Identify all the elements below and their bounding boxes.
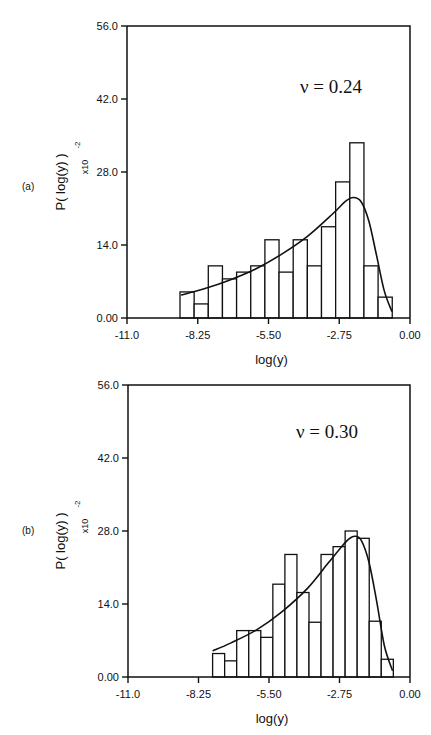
histogram-bar [222, 279, 236, 318]
histogram-chart-b: 0.0014.028.042.056.0-11.0-8.25-5.50-2.75… [0, 358, 431, 735]
histogram-bar [194, 304, 208, 318]
y-tick-label: 14.0 [97, 239, 118, 251]
x-tick-label: 0.00 [399, 688, 420, 700]
x-tick-label: -2.75 [327, 688, 352, 700]
histogram-bar [336, 182, 350, 318]
histogram-chart-a: 0.0014.028.042.056.0-11.0-8.25-5.50-2.75… [0, 0, 431, 368]
chart-panel-a: 0.0014.028.042.056.0-11.0-8.25-5.50-2.75… [0, 0, 431, 368]
y-tick-label: 56.0 [97, 20, 118, 32]
x-axis-label: log(y) [256, 711, 289, 726]
histogram-bar [180, 292, 194, 318]
histogram-bar [285, 554, 297, 677]
y-axis-label: P( log(y) ) [53, 153, 68, 210]
histogram-bar [225, 661, 237, 677]
histogram-bar [213, 654, 225, 677]
x-tick-label: -11.0 [115, 329, 139, 341]
histogram-bar [307, 266, 321, 318]
histogram-bar [265, 240, 279, 318]
histogram-bar [364, 266, 378, 318]
histogram-bar [297, 593, 309, 677]
x-tick-label: 0.00 [399, 329, 420, 341]
y-tick-label: 56.0 [98, 379, 119, 391]
x-tick-label: -8.25 [185, 329, 210, 341]
y-scale-exponent: -2 [73, 500, 82, 508]
x-tick-label: -11.0 [116, 688, 140, 700]
y-axis-label: P( log(y) ) [53, 512, 68, 569]
x-tick-label: -5.50 [256, 329, 281, 341]
histogram-bar [293, 240, 307, 318]
x-tick-label: -5.50 [256, 688, 281, 700]
histogram-bars [180, 143, 392, 318]
histogram-bar [350, 143, 364, 318]
histogram-bar [208, 266, 222, 318]
histogram-bar [279, 272, 293, 318]
y-tick-label: 14.0 [98, 598, 119, 610]
histogram-bar [273, 584, 285, 677]
histogram-bar [321, 554, 333, 677]
y-tick-label: 42.0 [97, 93, 118, 105]
histogram-bar [261, 637, 273, 677]
histogram-bar [251, 266, 265, 318]
histogram-bar [249, 631, 261, 677]
y-tick-label: 42.0 [98, 452, 119, 464]
histogram-bar [237, 272, 251, 318]
y-tick-label: 0.00 [97, 312, 118, 324]
histogram-bar [309, 622, 321, 677]
x-tick-label: -8.25 [186, 688, 211, 700]
panel-label: (a) [22, 181, 34, 192]
histogram-bar [321, 227, 335, 318]
chart-panel-b: 0.0014.028.042.056.0-11.0-8.25-5.50-2.75… [0, 358, 431, 735]
y-tick-label: 28.0 [97, 166, 118, 178]
y-tick-label: 0.00 [98, 671, 119, 683]
nu-annotation: ν = 0.30 [296, 421, 358, 442]
histogram-bar [345, 531, 357, 677]
panel-label: (b) [22, 525, 34, 536]
y-tick-label: 28.0 [98, 525, 119, 537]
x-tick-label: -2.75 [327, 329, 352, 341]
nu-annotation: ν = 0.24 [300, 76, 363, 97]
y-scale-label: x10 [80, 160, 90, 175]
histogram-bar [369, 621, 381, 677]
y-scale-exponent: -2 [73, 141, 82, 149]
y-scale-label: x10 [80, 519, 90, 534]
histogram-bar [333, 547, 345, 677]
